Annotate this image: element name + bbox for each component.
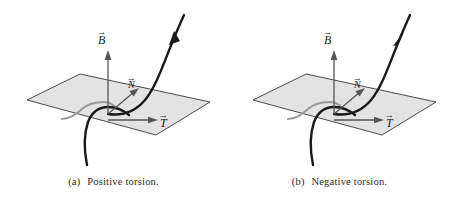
caption-tag-a: (a) — [68, 176, 80, 187]
curve-direction-arrowhead — [393, 32, 404, 46]
figure-torsion: → B → T → N (a) Positive torsion. — [0, 0, 453, 206]
binormal-label: → B — [324, 34, 331, 46]
normal-label: → N — [354, 80, 361, 90]
panel-negative-torsion: → B → T → N (b) Negative torsion. — [226, 0, 453, 206]
normal-arrow-accent: → — [127, 74, 136, 83]
normal-arrow-accent: → — [353, 74, 362, 83]
curve-direction-arrowhead — [169, 31, 180, 45]
binormal-arrowhead — [331, 50, 338, 60]
caption-tag-b: (b) — [292, 176, 305, 187]
tangent-label: → T — [160, 117, 167, 129]
binormal-arrow-accent: → — [323, 28, 332, 37]
binormal-label: → B — [98, 34, 105, 46]
tangent-label: → T — [386, 117, 393, 129]
binormal-arrow-accent: → — [97, 28, 106, 37]
caption-positive-torsion: (a) Positive torsion. — [0, 176, 227, 187]
tangent-arrow-accent: → — [385, 111, 394, 120]
caption-negative-torsion: (b) Negative torsion. — [226, 176, 453, 187]
panel-positive-torsion: → B → T → N (a) Positive torsion. — [0, 0, 227, 206]
binormal-arrowhead — [105, 50, 112, 60]
diagram-svg-a — [0, 0, 227, 175]
normal-label: → N — [128, 80, 135, 90]
caption-text-b: Negative torsion. — [311, 176, 387, 187]
tangent-arrow-accent: → — [159, 111, 168, 120]
diagram-svg-b — [226, 0, 453, 175]
caption-text-a: Positive torsion. — [87, 176, 159, 187]
